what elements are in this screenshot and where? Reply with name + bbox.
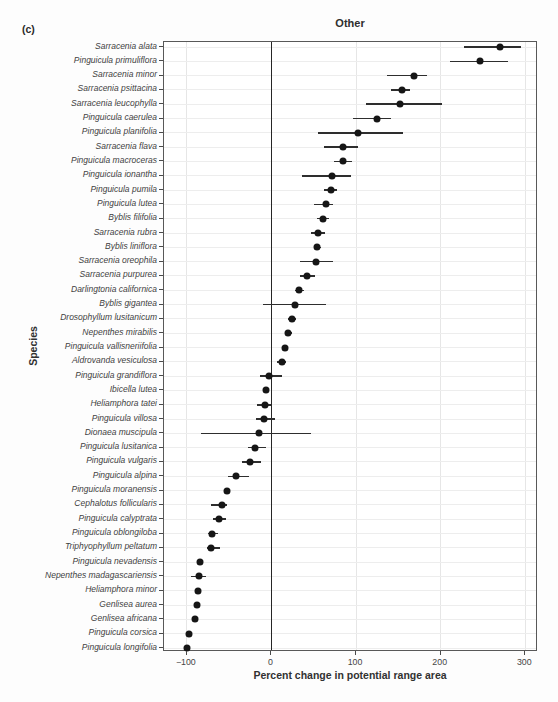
- gridline-horizontal: [164, 333, 536, 334]
- species-label: Nepenthes madagascariensis: [0, 571, 157, 580]
- data-point: [263, 387, 270, 394]
- y-axis-tick: [159, 389, 163, 390]
- data-point: [292, 301, 299, 308]
- data-point: [323, 201, 330, 208]
- y-axis-tick: [159, 547, 163, 548]
- data-point: [496, 44, 503, 51]
- y-axis-tick: [159, 246, 163, 247]
- gridline-horizontal: [164, 261, 536, 262]
- data-point: [410, 72, 417, 79]
- data-point: [313, 258, 320, 265]
- gridline-horizontal: [164, 562, 536, 563]
- data-point: [197, 559, 204, 566]
- y-axis-tick: [159, 518, 163, 519]
- gridline-horizontal: [164, 533, 536, 534]
- species-label: Byblis gigantea: [0, 299, 157, 308]
- species-label: Drosophyllum lusitanicum: [0, 313, 157, 322]
- species-label: Pinguicula primuliflora: [0, 56, 157, 65]
- data-point: [224, 487, 231, 494]
- y-axis-tick: [159, 289, 163, 290]
- gridline-horizontal: [164, 118, 536, 119]
- species-label: Heliamphora minor: [0, 585, 157, 594]
- y-axis-tick: [159, 89, 163, 90]
- y-axis-tick: [159, 60, 163, 61]
- y-axis-tick: [159, 475, 163, 476]
- species-label: Pinguicula nevadensis: [0, 557, 157, 566]
- gridline-horizontal: [164, 347, 536, 348]
- x-axis-tick: [440, 651, 441, 655]
- data-point: [320, 215, 327, 222]
- x-tick-label: 300: [502, 657, 546, 667]
- x-axis-tick: [270, 651, 271, 655]
- error-bar: [387, 75, 428, 77]
- species-label: Cephalotus follicularis: [0, 499, 157, 508]
- species-label: Pinguicula vallisneriifolia: [0, 342, 157, 351]
- species-label: Genlisea africana: [0, 614, 157, 623]
- gridline-horizontal: [164, 304, 536, 305]
- gridline-horizontal: [164, 290, 536, 291]
- data-point: [183, 645, 190, 652]
- species-label: Sarracenia psittacina: [0, 84, 157, 93]
- species-label: Pinguicula grandiflora: [0, 371, 157, 380]
- species-label: Genlisea aurea: [0, 600, 157, 609]
- data-point: [261, 401, 268, 408]
- species-label: Pinguicula calyptrata: [0, 514, 157, 523]
- species-label: Ibicella lutea: [0, 385, 157, 394]
- gridline-horizontal: [164, 89, 536, 90]
- data-point: [282, 344, 289, 351]
- gridline-horizontal: [164, 605, 536, 606]
- x-axis-tick: [186, 651, 187, 655]
- panel-label: (c): [22, 23, 35, 35]
- data-point: [194, 587, 201, 594]
- species-label: Byblis filifolia: [0, 213, 157, 222]
- species-label: Pinguicula ionantha: [0, 170, 157, 179]
- y-axis-tick: [159, 203, 163, 204]
- species-label: Pinguicula oblongiloba: [0, 528, 157, 537]
- y-axis-tick: [159, 218, 163, 219]
- data-point: [398, 86, 405, 93]
- species-label: Pinguicula planifolia: [0, 127, 157, 136]
- x-tick-label: 0: [248, 657, 292, 667]
- y-axis-tick: [159, 175, 163, 176]
- data-point: [327, 187, 334, 194]
- species-label: Pinguicula lusitanica: [0, 442, 157, 451]
- y-axis-tick: [159, 618, 163, 619]
- data-point: [216, 516, 223, 523]
- species-label: Pinguicula vulgaris: [0, 456, 157, 465]
- data-point: [208, 544, 215, 551]
- y-axis-tick: [159, 75, 163, 76]
- gridline-horizontal: [164, 419, 536, 420]
- y-axis-tick: [159, 318, 163, 319]
- gridline-horizontal: [164, 190, 536, 191]
- data-point: [251, 444, 258, 451]
- gridline-horizontal: [164, 104, 536, 105]
- data-point: [304, 272, 311, 279]
- y-axis-tick: [159, 647, 163, 648]
- species-label: Heliamphora tatei: [0, 399, 157, 408]
- y-axis-labels: Sarracenia alataPinguicula primulifloraS…: [0, 41, 157, 651]
- species-label: Pinguicula caerulea: [0, 113, 157, 122]
- y-axis-tick: [159, 46, 163, 47]
- y-axis-tick: [159, 375, 163, 376]
- y-axis-tick: [159, 590, 163, 591]
- y-axis-tick: [159, 361, 163, 362]
- data-point: [255, 430, 262, 437]
- data-point: [195, 573, 202, 580]
- species-label: Sarracenia rubra: [0, 228, 157, 237]
- gridline-horizontal: [164, 447, 536, 448]
- species-label: Sarracenia flava: [0, 142, 157, 151]
- species-label: Sarracenia leucophylla: [0, 99, 157, 108]
- species-label: Pinguicula alpina: [0, 471, 157, 480]
- y-axis-tick: [159, 461, 163, 462]
- gridline-horizontal: [164, 247, 536, 248]
- species-label: Pinguicula lutea: [0, 199, 157, 208]
- y-axis-tick: [159, 575, 163, 576]
- gridline-horizontal: [164, 404, 536, 405]
- gridline-horizontal: [164, 648, 536, 649]
- data-point: [329, 172, 336, 179]
- gridline-horizontal: [164, 619, 536, 620]
- x-axis-tick: [524, 651, 525, 655]
- gridline-horizontal: [164, 576, 536, 577]
- data-point: [192, 616, 199, 623]
- y-axis-tick: [159, 160, 163, 161]
